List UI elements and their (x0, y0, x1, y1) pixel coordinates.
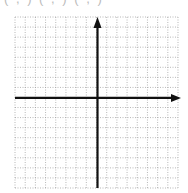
coordinate-plane (0, 0, 188, 193)
x-axis-arrow-icon (171, 94, 181, 102)
axes (15, 17, 181, 188)
y-axis-arrow-icon (94, 17, 102, 28)
